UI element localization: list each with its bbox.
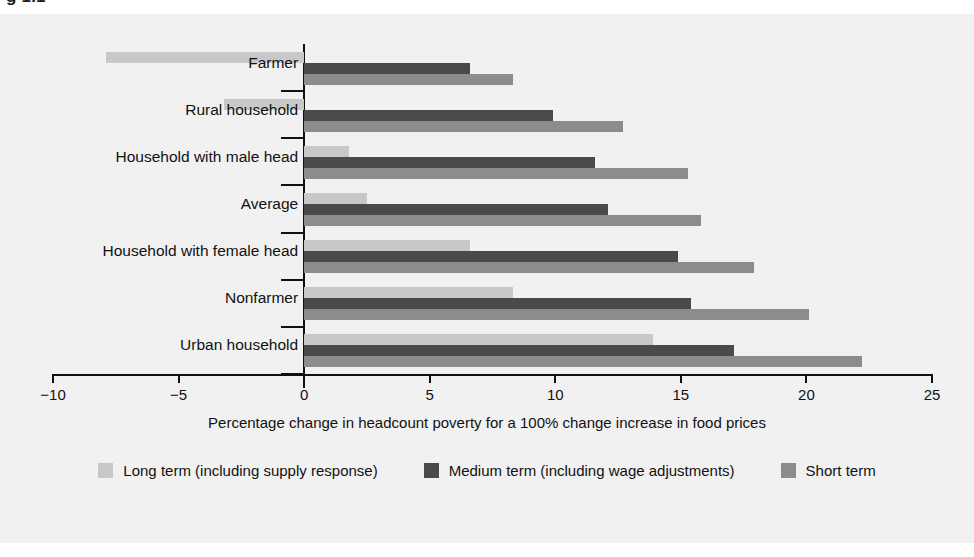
bar-short-term: [304, 356, 862, 367]
x-axis-tick-label: 15: [673, 386, 690, 403]
x-axis-title: Percentage change in headcount poverty f…: [0, 414, 974, 431]
bar-long-term: [304, 146, 349, 157]
legend-item[interactable]: Long term (including supply response): [98, 462, 377, 479]
legend-item[interactable]: Short term: [781, 462, 876, 479]
group-separator-tick: [281, 232, 303, 234]
category-label: Rural household: [185, 101, 298, 119]
bar-short-term: [304, 168, 688, 179]
chart-figure: −10−50510152025FarmerRural householdHous…: [0, 14, 974, 543]
bar-medium-term: [304, 345, 733, 356]
legend-swatch-icon: [98, 463, 113, 478]
x-axis-tick-label: −10: [40, 386, 65, 403]
figure-title: g 1.1: [6, 0, 46, 7]
x-axis-tick: [429, 374, 431, 383]
bar-medium-term: [304, 204, 608, 215]
legend-swatch-icon: [781, 463, 796, 478]
bar-short-term: [304, 121, 623, 132]
category-label: Urban household: [180, 336, 298, 354]
category-label: Farmer: [248, 54, 298, 72]
x-axis-tick: [680, 374, 682, 383]
x-axis-tick: [931, 374, 933, 383]
bar-short-term: [304, 262, 754, 273]
x-axis-tick-label: 0: [300, 386, 308, 403]
group-separator-tick: [281, 326, 303, 328]
legend-label: Short term: [806, 462, 876, 479]
bar-medium-term: [304, 298, 691, 309]
x-axis-tick: [178, 374, 180, 383]
x-axis-tick: [805, 374, 807, 383]
bar-short-term: [304, 215, 701, 226]
category-label: Average: [241, 195, 298, 213]
group-separator-tick: [281, 137, 303, 139]
bar-medium-term: [304, 63, 470, 74]
bar-long-term: [304, 193, 367, 204]
category-label: Nonfarmer: [225, 289, 298, 307]
x-axis-tick: [554, 374, 556, 383]
x-axis-tick-label: 5: [426, 386, 434, 403]
x-axis-tick-label: 25: [924, 386, 941, 403]
x-axis-line: [53, 374, 932, 376]
group-separator-tick: [281, 184, 303, 186]
x-axis-tick-label: 10: [547, 386, 564, 403]
bar-medium-term: [304, 251, 678, 262]
legend-swatch-icon: [424, 463, 439, 478]
figure-title-strip: g 1.1: [0, 0, 974, 14]
x-axis-tick: [303, 374, 305, 383]
legend-item[interactable]: Medium term (including wage adjustments): [424, 462, 735, 479]
bar-medium-term: [304, 157, 595, 168]
legend-label: Medium term (including wage adjustments): [449, 462, 735, 479]
bar-medium-term: [304, 110, 553, 121]
x-axis-tick: [52, 374, 54, 383]
chart-legend: Long term (including supply response)Med…: [0, 462, 974, 479]
group-separator-tick: [281, 373, 303, 375]
bar-short-term: [304, 309, 809, 320]
figure-page: g 1.1 −10−50510152025FarmerRural househo…: [0, 0, 974, 557]
bar-long-term: [304, 334, 653, 345]
legend-label: Long term (including supply response): [123, 462, 377, 479]
plot-area: −10−50510152025FarmerRural householdHous…: [0, 14, 974, 394]
bar-long-term: [304, 287, 512, 298]
category-label: Household with male head: [115, 148, 298, 166]
bar-long-term: [304, 240, 470, 251]
group-separator-tick: [281, 279, 303, 281]
x-axis-tick-label: 20: [798, 386, 815, 403]
group-separator-tick: [281, 90, 303, 92]
bar-short-term: [304, 74, 512, 85]
category-label: Household with female head: [103, 242, 299, 260]
x-axis-tick-label: −5: [170, 386, 187, 403]
